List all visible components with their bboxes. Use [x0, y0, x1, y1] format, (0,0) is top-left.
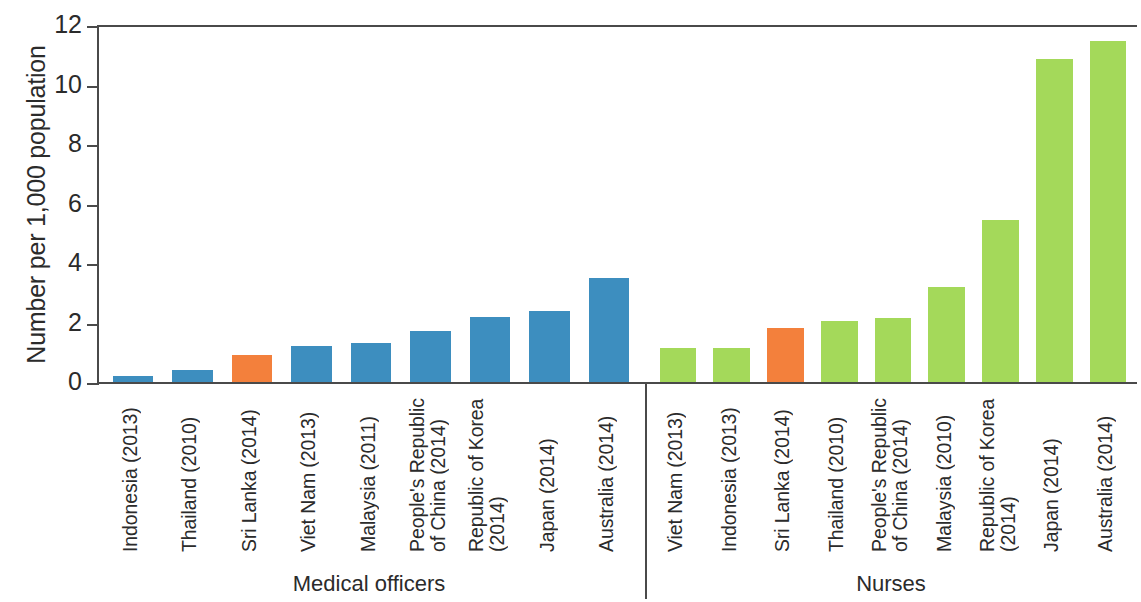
x-axis-category-label-line: Indonesia (2013): [119, 407, 141, 552]
bar: [470, 317, 510, 382]
x-axis-category-label-line: (2014): [487, 392, 508, 552]
x-axis-category-label: Indonesia (2013): [120, 392, 141, 552]
y-tickmark: [87, 26, 99, 28]
x-axis-category-label: Japan (2014): [537, 392, 558, 552]
x-axis-category-label-line: Sri Lanka (2014): [238, 409, 260, 552]
x-axis-category-label-line: People's Republic: [868, 398, 890, 552]
x-axis-category-label-line: Republic of Korea: [976, 399, 998, 552]
x-axis-category-label: Republic of Korea(2014): [466, 392, 508, 552]
x-axis-category-label: Republic of Korea(2014): [977, 392, 1019, 552]
bar: [291, 346, 331, 382]
bar-highlighted: [232, 355, 272, 382]
x-axis-category-label-line: Japan (2014): [536, 438, 558, 552]
bar: [113, 376, 153, 382]
x-axis-category-label-line: Republic of Korea: [465, 399, 487, 552]
bar: [1036, 59, 1073, 382]
bar: [928, 287, 965, 382]
x-axis-category-label-line: Sri Lanka (2014): [771, 409, 793, 552]
plot-area: [97, 25, 1137, 382]
bar: [589, 278, 629, 382]
group-divider: [645, 384, 647, 599]
x-axis-category-label: Thailand (2010): [179, 392, 200, 552]
x-axis-category-label-line: Malaysia (2010): [933, 415, 955, 552]
x-axis-category-label-line: Thailand (2010): [178, 417, 200, 552]
x-axis-category-label: Sri Lanka (2014): [772, 392, 793, 552]
x-axis-category-label-line: of China (2014): [428, 392, 449, 552]
x-axis-category-label: Viet Nam (2013): [298, 392, 319, 552]
x-axis-category-label-line: People's Republic: [406, 398, 428, 552]
x-axis-category-label-line: (2014): [998, 392, 1019, 552]
x-axis-category-label: Thailand (2010): [826, 392, 847, 552]
x-axis-category-label-line: Australia (2014): [1094, 416, 1116, 552]
y-tickmark: [87, 205, 99, 207]
bar: [529, 311, 569, 382]
bar: [713, 348, 750, 382]
x-axis-category-label: Viet Nam (2013): [665, 392, 686, 552]
y-tickmark: [87, 145, 99, 147]
x-axis-category-label-line: Thailand (2010): [825, 417, 847, 552]
x-axis-category-label: People's Republicof China (2014): [869, 392, 911, 552]
bar: [875, 318, 912, 382]
bar-chart-figure: Number per 1,000 population 024681012 In…: [0, 0, 1141, 602]
group-title: Nurses: [741, 571, 1041, 597]
y-tick-label: 6: [48, 191, 82, 216]
x-axis-category-label-line: Japan (2014): [1040, 438, 1062, 552]
y-tickmark: [87, 264, 99, 266]
y-tickmark: [87, 383, 99, 385]
bar: [821, 321, 858, 382]
x-axis-category-label-line: Malaysia (2011): [357, 416, 379, 552]
x-axis-category-label: People's Republicof China (2014): [407, 392, 449, 552]
y-tickmark: [87, 86, 99, 88]
x-axis-category-label: Malaysia (2010): [934, 392, 955, 552]
x-axis-category-label-line: Viet Nam (2013): [297, 412, 319, 552]
bar-highlighted: [767, 328, 804, 382]
bar: [660, 348, 697, 382]
x-axis-category-label: Indonesia (2013): [719, 392, 740, 552]
x-axis-category-label-line: of China (2014): [890, 392, 911, 552]
x-axis-category-label-line: Australia (2014): [595, 416, 617, 552]
bar: [172, 370, 212, 382]
x-axis-category-label: Malaysia (2011): [358, 392, 379, 552]
x-axis-category-label-line: Viet Nam (2013): [664, 412, 686, 552]
y-tick-label: 8: [48, 131, 82, 156]
bar: [410, 331, 450, 382]
bar: [982, 220, 1019, 382]
y-tick-label: 4: [48, 250, 82, 275]
bar: [1090, 41, 1127, 382]
y-tick-label: 2: [48, 310, 82, 335]
y-tick-label: 12: [48, 12, 82, 37]
bar: [351, 343, 391, 382]
y-tick-label: 0: [48, 369, 82, 394]
x-axis-category-label: Australia (2014): [596, 392, 617, 552]
y-axis-tick-labels: 024681012: [40, 0, 82, 602]
group-title: Medical officers: [219, 571, 519, 597]
x-axis-category-label: Sri Lanka (2014): [239, 392, 260, 552]
x-axis-category-label: Japan (2014): [1041, 392, 1062, 552]
x-axis-category-label: Australia (2014): [1095, 392, 1116, 552]
y-tick-label: 10: [48, 72, 82, 97]
y-tickmark: [87, 324, 99, 326]
x-axis-category-label-line: Indonesia (2013): [718, 407, 740, 552]
